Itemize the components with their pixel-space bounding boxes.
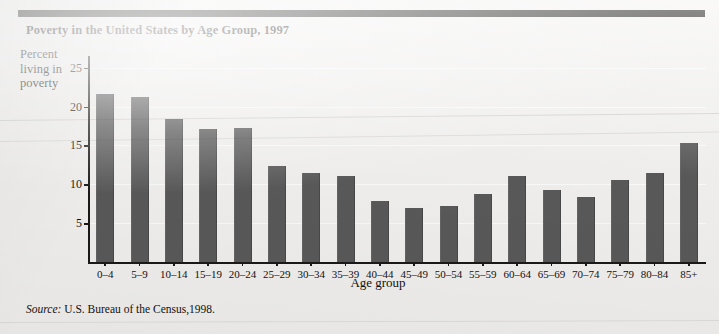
plot-area: 510152025 0–45–910–1415–1920–2425–2930–3… (88, 56, 706, 262)
bar (131, 97, 149, 262)
x-tick-mark (448, 262, 450, 266)
bar (234, 128, 252, 262)
bar (268, 166, 286, 262)
scan-streak (0, 320, 719, 323)
x-tick-mark (551, 262, 553, 266)
gridline (89, 107, 706, 108)
bar (508, 176, 526, 262)
y-tick-label: 5 (56, 217, 82, 229)
x-axis-line (88, 262, 706, 264)
bar (199, 129, 217, 262)
x-tick-mark (413, 262, 415, 266)
y-axis-line (88, 56, 90, 262)
x-tick-mark (242, 262, 244, 266)
x-tick-mark (379, 262, 381, 266)
x-tick-mark (104, 262, 106, 266)
x-tick-mark (276, 262, 278, 266)
y-tick-label: 25 (56, 62, 82, 74)
x-tick-mark (310, 262, 312, 266)
x-tick-mark (654, 262, 656, 266)
top-rule (18, 10, 705, 17)
bar (165, 119, 183, 262)
y-tick-mark (84, 184, 88, 186)
figure-title: Poverty in the United States by Age Grou… (26, 23, 289, 38)
source-value: U.S. Bureau of the Census,1998. (61, 303, 215, 315)
x-tick-mark (139, 262, 141, 266)
bar (474, 194, 492, 262)
y-tick-mark (84, 68, 88, 70)
bar (680, 143, 698, 262)
source-label: Source: (26, 303, 61, 315)
x-tick-mark (516, 262, 518, 266)
x-axis-title: Age group (318, 275, 438, 291)
y-tick-mark (84, 145, 88, 147)
x-tick-label: 85+ (667, 268, 711, 280)
bar (371, 201, 389, 262)
y-tick-label: 10 (56, 178, 82, 190)
x-tick-mark (619, 262, 621, 266)
x-tick-mark (585, 262, 587, 266)
bar (646, 173, 664, 262)
x-tick-mark (482, 262, 484, 266)
figure-page: Poverty in the United States by Age Grou… (0, 0, 719, 334)
x-tick-mark (207, 262, 209, 266)
x-tick-mark (173, 262, 175, 266)
y-axis-title-line: Percent (20, 47, 86, 62)
y-axis-title-line: poverty (20, 76, 86, 91)
bar (405, 208, 423, 262)
bar (337, 176, 355, 262)
x-tick-mark (688, 262, 690, 266)
y-tick-mark (84, 107, 88, 109)
bar (302, 173, 320, 262)
bar (543, 190, 561, 262)
y-tick-label: 15 (56, 139, 82, 151)
x-tick-mark (345, 262, 347, 266)
bar (611, 180, 629, 262)
y-tick-label: 20 (56, 101, 82, 113)
bar (577, 197, 595, 262)
bar (96, 94, 114, 262)
y-tick-mark (84, 223, 88, 225)
source-note: Source: U.S. Bureau of the Census,1998. (26, 303, 215, 315)
bar (440, 206, 458, 262)
gridline (89, 68, 706, 69)
